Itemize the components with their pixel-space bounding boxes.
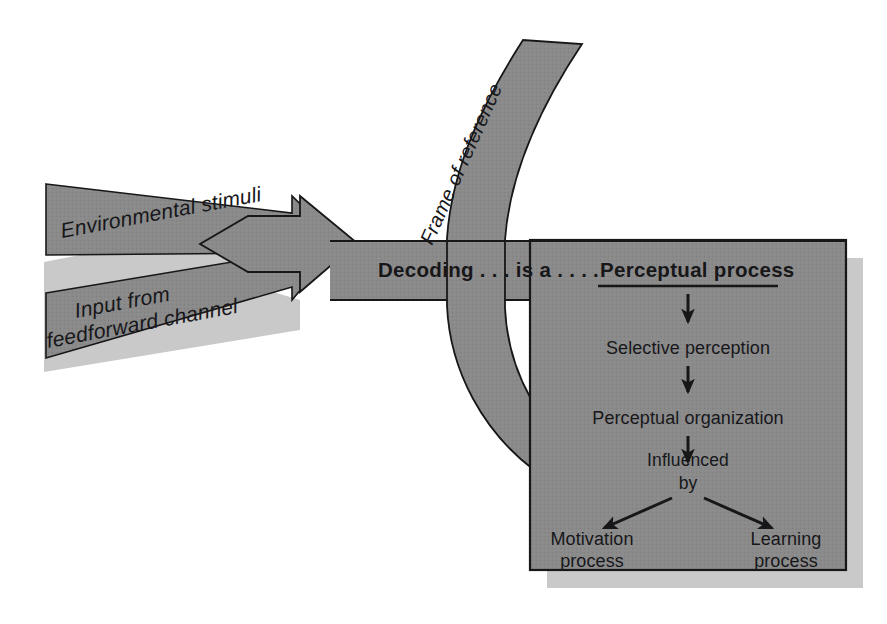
perceptual-process-label: Perceptual process [600, 258, 795, 281]
influenced-label-line2: by [679, 473, 698, 493]
flow-step-perceptual-organization: Perceptual organization [592, 408, 783, 428]
decoding-prefix-label: Decoding . . . is a . . . . [378, 258, 599, 281]
perceptual-process-box-group [530, 240, 846, 570]
diagram-canvas: Environmental stimuli Input from feedfor… [0, 0, 887, 624]
influenced-label-line1: Influenced [647, 450, 729, 470]
branch-motivation-line1: Motivation [550, 529, 633, 549]
flow-step-selective-perception: Selective perception [606, 338, 770, 358]
branch-learning-line1: Learning [751, 529, 822, 549]
branch-learning-line2: process [754, 551, 818, 571]
perceptual-process-box [530, 240, 846, 570]
branch-motivation-line2: process [560, 551, 624, 571]
perceptual-process-diagram: Environmental stimuli Input from feedfor… [0, 0, 887, 624]
